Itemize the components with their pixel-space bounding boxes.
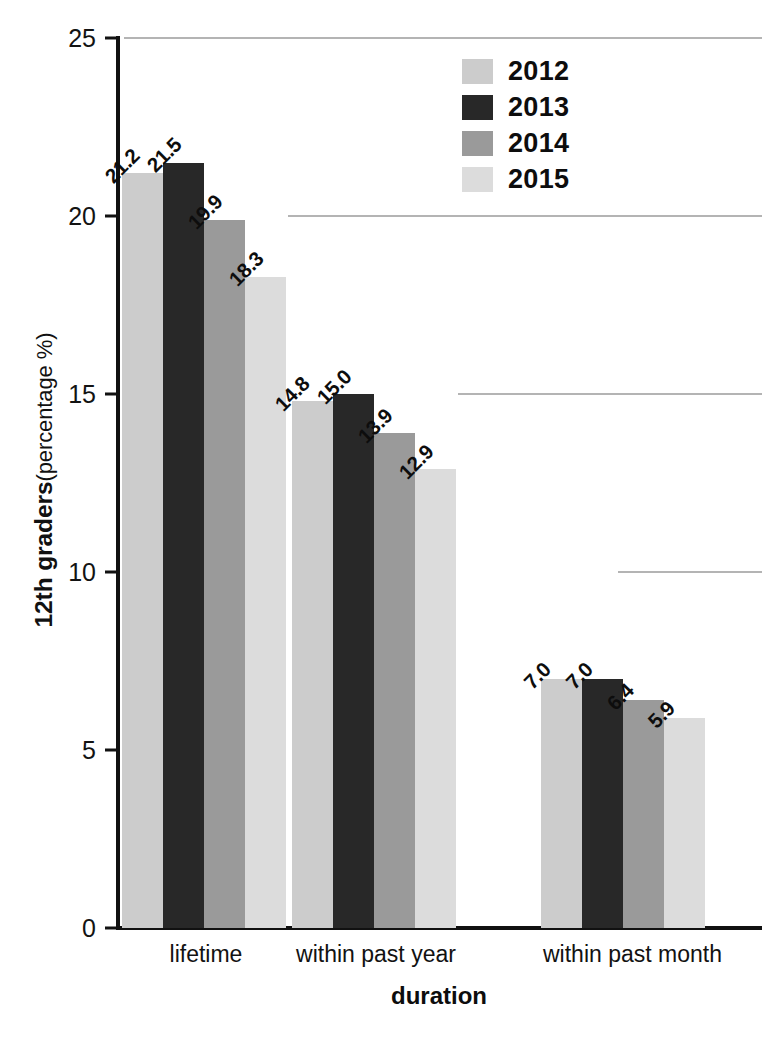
- bar-past-month-2014: [623, 700, 664, 928]
- legend-label-2015: 2015: [508, 164, 569, 195]
- bar-chart-figure: 12th graders(percentage %) 25 20 15 10 5…: [0, 0, 769, 1043]
- bar-past-year-2012: [292, 401, 333, 928]
- x-group-label-past-month: within past month: [543, 941, 707, 968]
- legend-item-2012[interactable]: 2012: [462, 55, 692, 88]
- legend-swatch-2013-icon: [462, 95, 493, 120]
- bar-lifetime-2015: [245, 277, 286, 929]
- bar-lifetime-2014: [204, 220, 245, 928]
- legend-item-2014[interactable]: 2014: [462, 127, 692, 160]
- x-axis-title: duration: [116, 982, 762, 1010]
- bar-past-year-2014: [374, 433, 415, 928]
- legend-label-2012: 2012: [508, 56, 569, 87]
- legend-item-2013[interactable]: 2013: [462, 91, 692, 124]
- x-group-label-lifetime: lifetime: [124, 941, 288, 968]
- bar-past-month-2013: [582, 679, 623, 928]
- bar-lifetime-2013: [163, 163, 204, 928]
- bar-past-month-2015: [664, 718, 705, 928]
- legend-swatch-2014-icon: [462, 131, 493, 156]
- legend-label-2014: 2014: [508, 128, 569, 159]
- bar-past-month-2012: [541, 679, 582, 928]
- legend-swatch-2015-icon: [462, 167, 493, 192]
- bar-past-year-2015: [415, 469, 456, 928]
- bar-past-year-2013: [333, 394, 374, 928]
- legend-swatch-2012-icon: [462, 59, 493, 84]
- legend-label-2013: 2013: [508, 92, 569, 123]
- x-group-label-past-year: within past year: [294, 941, 458, 968]
- bar-lifetime-2012: [122, 173, 163, 928]
- legend: 2012 2013 2014 2015: [462, 55, 692, 199]
- legend-item-2015[interactable]: 2015: [462, 163, 692, 196]
